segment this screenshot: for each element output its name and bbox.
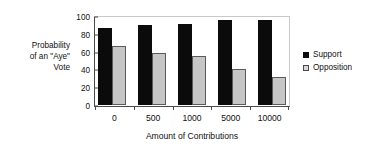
legend-item-support: Support xyxy=(303,48,352,61)
bar-support-0 xyxy=(98,28,112,105)
legend-swatch-support-icon xyxy=(303,52,309,58)
x-tick-label: 10000 xyxy=(258,113,282,123)
bar-opposition-0 xyxy=(112,46,126,105)
bar-opposition-5000 xyxy=(232,69,246,105)
bar-support-5000 xyxy=(218,20,232,105)
bar-group xyxy=(178,17,206,105)
y-axis-title-line-2: of an "Aye" xyxy=(4,51,70,62)
legend-label-opposition: Opposition xyxy=(313,63,352,72)
bar-opposition-500 xyxy=(152,53,166,106)
legend-label-support: Support xyxy=(313,50,342,59)
x-tick-mark xyxy=(288,106,289,110)
bar-support-500 xyxy=(138,25,152,105)
chart-legend: Support Opposition xyxy=(303,48,352,74)
bar-series-container xyxy=(96,17,288,105)
x-tick-label: 5000 xyxy=(221,113,240,123)
x-axis-title: Amount of Contributions xyxy=(94,131,290,141)
y-axis-title: Probability of an "Aye" Vote xyxy=(4,40,70,73)
bar-support-1000 xyxy=(178,24,192,105)
bar-group xyxy=(138,17,166,105)
bar-opposition-1000 xyxy=(192,56,206,105)
y-tick-label: 80 xyxy=(81,30,95,39)
y-axis-title-line-3: Vote xyxy=(4,62,70,73)
bar-group xyxy=(98,17,126,105)
x-tick-label: 0 xyxy=(112,113,117,123)
bar-group xyxy=(218,17,246,105)
x-tick-mark xyxy=(173,106,174,110)
bar-opposition-10000 xyxy=(272,77,286,105)
y-axis-title-line-1: Probability xyxy=(4,40,70,51)
x-tick-mark xyxy=(95,106,96,110)
y-tick-label: 0 xyxy=(85,102,95,111)
x-tick-mark xyxy=(211,106,212,110)
bar-chart-figure: Probability of an "Aye" Vote 02040608010… xyxy=(0,0,378,150)
x-tick-label: 1000 xyxy=(182,113,201,123)
x-tick-label: 500 xyxy=(146,113,160,123)
y-tick-label: 40 xyxy=(81,66,95,75)
bar-support-10000 xyxy=(258,20,272,105)
plot-area: 020406080100 05001000500010000 xyxy=(94,16,290,107)
y-tick-label: 60 xyxy=(81,48,95,57)
legend-item-opposition: Opposition xyxy=(303,61,352,74)
y-tick-label: 20 xyxy=(81,84,95,93)
y-tick-label: 100 xyxy=(76,13,95,22)
legend-swatch-opposition-icon xyxy=(303,65,309,71)
x-tick-mark xyxy=(250,106,251,110)
bar-group xyxy=(258,17,286,105)
x-tick-mark xyxy=(134,106,135,110)
